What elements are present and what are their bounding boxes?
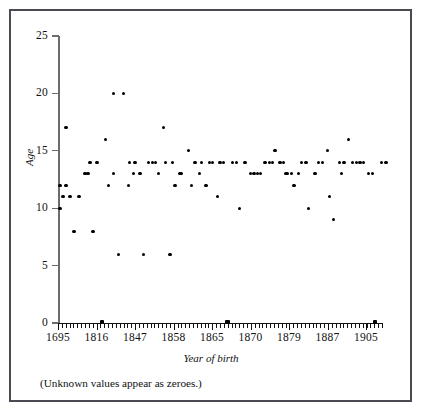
x-minor-tick <box>340 323 341 328</box>
x-minor-tick <box>301 323 302 328</box>
x-major-tick-1695 <box>58 323 59 330</box>
data-point <box>147 161 150 164</box>
x-major-tick-1887 <box>328 323 329 330</box>
x-minor-tick <box>139 323 140 328</box>
data-point <box>132 172 135 175</box>
x-minor-tick <box>124 323 125 328</box>
x-minor-tick <box>359 323 360 328</box>
data-point <box>235 161 238 164</box>
data-point <box>342 161 345 164</box>
x-minor-tick <box>239 323 240 328</box>
data-point <box>64 126 67 129</box>
data-point <box>173 184 176 187</box>
data-point <box>112 92 115 95</box>
x-minor-tick <box>170 323 171 328</box>
x-minor-tick <box>313 323 314 328</box>
y-tick-25 <box>52 35 59 36</box>
x-minor-tick <box>158 323 159 328</box>
data-point <box>307 207 310 210</box>
x-minor-tick <box>108 323 109 328</box>
x-major-tick-1870 <box>251 323 252 330</box>
x-major-tick-1858 <box>174 323 175 330</box>
x-major-tick-1865 <box>212 323 213 330</box>
x-minor-tick <box>382 323 383 328</box>
data-point <box>362 161 365 164</box>
x-minor-tick <box>324 323 325 328</box>
x-minor-tick <box>332 323 333 328</box>
data-point <box>313 172 316 175</box>
x-minor-tick <box>216 323 217 328</box>
data-point <box>193 161 196 164</box>
data-point <box>72 230 75 233</box>
x-minor-tick <box>116 323 117 328</box>
x-minor-tick <box>201 323 202 328</box>
y-tick-5 <box>52 265 59 266</box>
data-point <box>64 184 67 187</box>
x-minor-tick <box>259 323 260 328</box>
x-minor-tick <box>316 323 317 328</box>
x-minor-tick <box>73 323 74 328</box>
x-minor-tick <box>320 323 321 328</box>
y-tick-label-0: 0 <box>0 317 48 329</box>
x-minor-tick <box>143 323 144 328</box>
y-tick-label-25: 25 <box>0 30 48 42</box>
data-point <box>300 161 303 164</box>
data-point <box>332 218 335 221</box>
data-point <box>371 172 374 175</box>
x-minor-tick <box>363 323 364 328</box>
data-point <box>290 172 293 175</box>
data-point <box>95 161 98 164</box>
data-point <box>154 161 157 164</box>
x-minor-tick <box>243 323 244 328</box>
x-minor-tick <box>131 323 132 328</box>
x-minor-tick <box>355 323 356 328</box>
y-tick-label-10: 10 <box>0 202 48 214</box>
x-minor-tick <box>178 323 179 328</box>
data-point <box>127 184 130 187</box>
x-axis-label: Year of birth <box>0 352 422 364</box>
y-tick-label-20: 20 <box>0 87 48 99</box>
x-minor-tick <box>270 323 271 328</box>
data-point <box>326 149 329 152</box>
x-minor-tick <box>220 323 221 328</box>
y-tick-20 <box>52 93 59 94</box>
data-point <box>304 161 307 164</box>
x-minor-tick <box>378 323 379 328</box>
data-point <box>133 161 136 164</box>
x-minor-tick <box>81 323 82 328</box>
x-minor-tick <box>278 323 279 328</box>
y-tick-label-5: 5 <box>0 260 48 272</box>
data-point <box>216 195 219 198</box>
x-minor-tick <box>93 323 94 328</box>
data-point <box>292 184 295 187</box>
x-major-tick-1816 <box>97 323 98 330</box>
data-point <box>107 184 110 187</box>
data-point <box>198 172 201 175</box>
x-minor-tick <box>247 323 248 328</box>
x-minor-tick <box>336 323 337 328</box>
x-minor-tick <box>274 323 275 328</box>
data-point <box>222 161 225 164</box>
data-point <box>200 161 203 164</box>
x-minor-tick <box>208 323 209 328</box>
x-minor-tick <box>282 323 283 328</box>
x-minor-tick <box>347 323 348 328</box>
x-minor-tick <box>62 323 63 328</box>
x-minor-tick <box>85 323 86 328</box>
x-minor-tick <box>297 323 298 328</box>
data-point <box>211 161 214 164</box>
data-point <box>100 320 104 324</box>
data-point <box>231 161 234 164</box>
data-point <box>238 207 241 210</box>
data-point <box>373 320 377 324</box>
x-minor-tick <box>305 323 306 328</box>
x-major-tick-1879 <box>289 323 290 330</box>
data-point <box>204 184 207 187</box>
plot-area: 0510152025 16951816184718581865187018791… <box>0 0 422 412</box>
x-minor-tick <box>147 323 148 328</box>
x-minor-tick <box>104 323 105 328</box>
data-point <box>263 161 266 164</box>
x-minor-tick <box>166 323 167 328</box>
data-point <box>286 172 289 175</box>
x-minor-tick <box>232 323 233 328</box>
